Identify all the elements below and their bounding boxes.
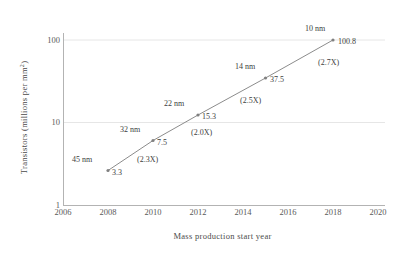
data-point-32nm xyxy=(151,139,154,142)
data-point-45nm xyxy=(106,169,109,172)
value-label-45nm: 3.3 xyxy=(112,168,122,177)
data-point-14nm xyxy=(264,76,267,79)
node-label-32nm: 32 nm xyxy=(120,125,140,134)
value-label-14nm: 37.5 xyxy=(270,75,284,84)
y-tick-100: 100 xyxy=(47,35,60,45)
x-tick-2018: 2018 xyxy=(325,207,342,217)
y-axis-title-main: Transistors (millions per mm xyxy=(19,67,29,174)
x-axis-title: Mass production start year xyxy=(18,231,409,241)
transistor-density-chart: 100 10 1 2006 2008 2010 2012 2014 2016 2… xyxy=(0,0,409,256)
y-tick-10: 10 xyxy=(52,117,61,127)
value-label-32nm: 7.5 xyxy=(157,138,167,147)
data-point-22nm xyxy=(196,113,199,116)
annotation-2-5x: (2.5X) xyxy=(240,96,261,105)
gridlines xyxy=(63,40,385,123)
y-axis-title: Transistors (millions per mm2) xyxy=(19,27,30,207)
x-tick-2012: 2012 xyxy=(190,207,207,217)
x-tick-2010: 2010 xyxy=(145,207,162,217)
x-tick-2020: 2020 xyxy=(370,207,387,217)
x-tick-2014: 2014 xyxy=(235,207,252,217)
node-label-14nm: 14 nm xyxy=(235,62,255,71)
x-tick-2016: 2016 xyxy=(280,207,297,217)
annotation-2-7x: (2.7X) xyxy=(318,58,339,67)
node-label-45nm: 45 nm xyxy=(72,155,92,164)
value-label-22nm: 15.3 xyxy=(202,112,216,121)
y-axis-title-superscript: 2 xyxy=(19,64,25,67)
data-line xyxy=(108,40,333,171)
annotation-2-0x: (2.0X) xyxy=(191,128,212,137)
data-point-10nm xyxy=(331,38,334,41)
x-tick-2008: 2008 xyxy=(100,207,117,217)
x-tick-2006: 2006 xyxy=(55,207,72,217)
annotation-2-3x: (2.3X) xyxy=(137,155,158,164)
node-label-10nm: 10 nm xyxy=(305,24,325,33)
value-label-10nm: 100.8 xyxy=(338,37,356,46)
y-axis-title-close: ) xyxy=(19,61,29,64)
node-label-22nm: 22 nm xyxy=(164,99,184,108)
